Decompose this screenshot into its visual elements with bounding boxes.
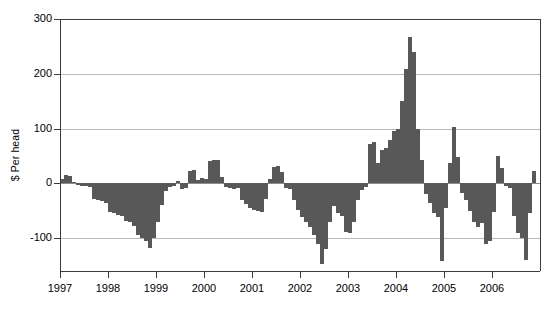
x-tick-label: 1997 bbox=[40, 282, 80, 294]
x-tick-mark bbox=[60, 272, 61, 278]
x-tick-label: 2005 bbox=[424, 282, 464, 294]
bar bbox=[264, 183, 268, 198]
y-tick-label: 0 bbox=[14, 176, 52, 188]
x-tick-mark bbox=[300, 272, 301, 278]
x-tick-mark bbox=[348, 272, 349, 278]
x-tick-mark bbox=[156, 272, 157, 278]
axis-frame-right bbox=[540, 19, 541, 271]
bar bbox=[492, 183, 496, 211]
x-tick-mark bbox=[396, 272, 397, 278]
y-axis-title: $ Per head bbox=[6, 0, 24, 309]
x-tick-label: 2004 bbox=[376, 282, 416, 294]
y-tick-mark bbox=[54, 183, 60, 184]
bar bbox=[364, 183, 368, 186]
x-tick-label: 2003 bbox=[328, 282, 368, 294]
gridline bbox=[60, 129, 540, 130]
x-tick-label: 2001 bbox=[232, 282, 272, 294]
bar bbox=[444, 183, 448, 208]
x-tick-mark bbox=[252, 272, 253, 278]
bar-chart: $ Per head 3002001000-100199719981999200… bbox=[0, 0, 554, 309]
x-tick-label: 1999 bbox=[136, 282, 176, 294]
y-tick-label: 200 bbox=[14, 67, 52, 79]
y-tick-label: 300 bbox=[14, 12, 52, 24]
axis-frame-left bbox=[60, 19, 61, 271]
x-tick-mark bbox=[204, 272, 205, 278]
y-tick-mark bbox=[54, 74, 60, 75]
x-tick-mark bbox=[108, 272, 109, 278]
bar bbox=[280, 172, 284, 183]
y-tick-label: -100 bbox=[14, 231, 52, 243]
bar bbox=[500, 168, 504, 183]
x-tick-label: 2006 bbox=[472, 282, 512, 294]
bar bbox=[532, 171, 536, 183]
x-tick-label: 2000 bbox=[184, 282, 224, 294]
y-tick-label: 100 bbox=[14, 122, 52, 134]
bar bbox=[528, 183, 532, 213]
gridline bbox=[60, 74, 540, 75]
bar bbox=[220, 177, 224, 184]
bar bbox=[420, 160, 424, 183]
x-tick-label: 2002 bbox=[280, 282, 320, 294]
y-tick-mark bbox=[54, 129, 60, 130]
x-tick-mark bbox=[492, 272, 493, 278]
bar bbox=[184, 183, 188, 187]
y-tick-mark bbox=[54, 238, 60, 239]
bar bbox=[172, 183, 176, 185]
y-tick-mark bbox=[54, 19, 60, 20]
axis-frame-top bbox=[60, 19, 540, 20]
y-axis-title-text: $ Per head bbox=[9, 128, 21, 180]
x-tick-label: 1998 bbox=[88, 282, 128, 294]
x-tick-mark bbox=[444, 272, 445, 278]
bar bbox=[456, 157, 460, 183]
gridline bbox=[60, 238, 540, 239]
